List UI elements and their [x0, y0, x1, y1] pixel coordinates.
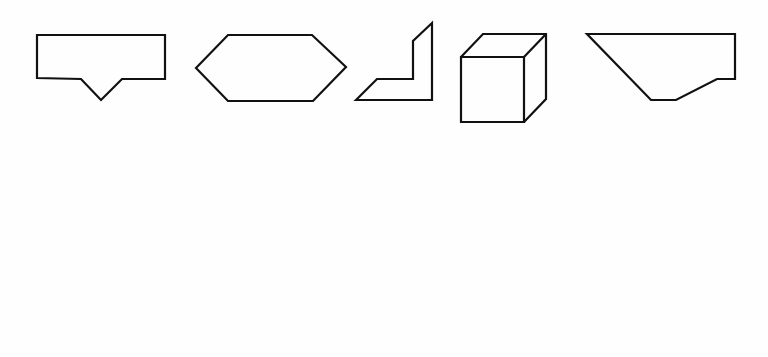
diagram-canvas: [0, 0, 768, 357]
shape-a: [37, 35, 165, 100]
shape-c: [356, 23, 432, 100]
shapes-layer: [0, 0, 768, 357]
shape-b: [196, 35, 346, 101]
shape-e: [587, 34, 735, 100]
shape-d: [461, 34, 546, 122]
